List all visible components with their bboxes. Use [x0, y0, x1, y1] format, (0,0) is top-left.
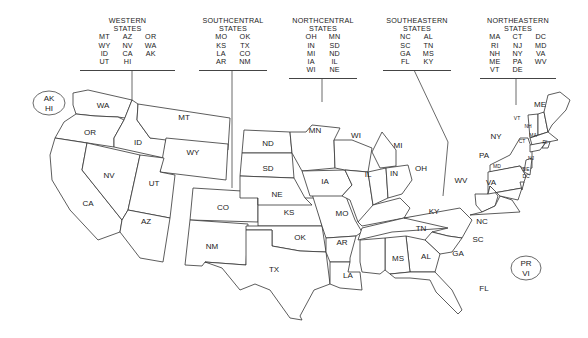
label-or: OR: [84, 128, 96, 137]
label-dc: DC: [522, 173, 530, 179]
label-ne: NE: [271, 190, 282, 199]
label-nc: NC: [476, 217, 488, 226]
label-mi: MI: [394, 141, 403, 150]
label-ga: GA: [452, 249, 464, 258]
label-tx: TX: [269, 265, 280, 274]
label-vt: VT: [514, 115, 520, 121]
label-de: DE: [523, 166, 531, 172]
label-sd: SD: [262, 164, 273, 173]
label-mn: MN: [309, 126, 322, 135]
label-tn: TN: [416, 224, 427, 233]
label-wy: WY: [187, 148, 201, 157]
label-ky: KY: [429, 207, 440, 216]
label-in: IN: [390, 169, 398, 178]
label-va: VA: [486, 178, 497, 187]
leader-southeastern: [414, 70, 448, 142]
label-nv: NV: [103, 171, 115, 180]
state-mi: [372, 132, 396, 168]
label-ma: MA: [529, 132, 537, 138]
label-ok: OK: [294, 233, 306, 242]
state-me: [544, 92, 570, 132]
label-mt: MT: [178, 113, 190, 122]
label-oh: OH: [415, 164, 427, 173]
label-ri: RI: [543, 139, 548, 145]
label-mo: MO: [336, 209, 349, 218]
label-md: MD: [493, 163, 501, 169]
label-wa: WA: [97, 101, 110, 110]
label-ny: NY: [490, 132, 502, 141]
label-ut: UT: [149, 179, 160, 188]
label-nd: ND: [262, 139, 274, 148]
label-ar: AR: [336, 238, 347, 247]
label-wv: WV: [455, 176, 469, 185]
label-me: ME: [534, 100, 546, 109]
label-fl: FL: [479, 284, 489, 293]
label-ct: CT: [519, 138, 526, 144]
label-id: ID: [134, 138, 142, 147]
label-ia: IA: [321, 177, 329, 186]
label-ca: CA: [82, 199, 94, 208]
us-map: AK HI PR VI WA OR CA NV ID MT WY UT AZ C…: [0, 0, 588, 338]
label-sc: SC: [472, 235, 483, 244]
state-wi: [334, 140, 372, 172]
label-nj: NJ: [528, 155, 535, 161]
label-il: IL: [365, 170, 372, 179]
label-nm: NM: [206, 242, 219, 251]
state-fl: [390, 272, 462, 314]
label-ms: MS: [392, 254, 404, 263]
label-al: AL: [421, 252, 431, 261]
leader-southeastern-2: [443, 142, 448, 196]
oval-ak-hi-line1: AK: [44, 94, 55, 103]
label-ks: KS: [284, 208, 295, 217]
label-wi: WI: [351, 131, 361, 140]
label-co: CO: [217, 203, 229, 212]
oval-ak-hi-line2: HI: [45, 104, 53, 113]
state-ms: [360, 238, 385, 274]
oval-pr-vi-line2: VI: [522, 269, 530, 278]
label-nh: NH: [524, 123, 532, 129]
label-la: LA: [343, 271, 353, 280]
oval-pr-vi-line1: PR: [520, 259, 531, 268]
label-az: AZ: [141, 217, 151, 226]
label-pa: PA: [479, 151, 490, 160]
